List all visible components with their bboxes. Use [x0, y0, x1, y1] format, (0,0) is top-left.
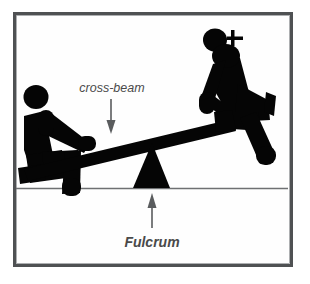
crossbeam-label: cross-beam [79, 81, 144, 95]
lever-diagram: cross-beam Fulcrum [0, 0, 310, 284]
fulcrum-label: Fulcrum [124, 234, 179, 250]
right-person-pocket [264, 92, 276, 116]
left-person-shoulder [38, 110, 54, 136]
diagram-canvas: cross-beam Fulcrum [0, 0, 310, 284]
face-detail-bar-vertical [231, 30, 235, 46]
left-person-foot [62, 178, 81, 196]
left-person-hand [78, 136, 96, 151]
face-detail-bar-horizontal [227, 37, 243, 41]
right-person-foot [256, 146, 276, 165]
left-person-head [24, 85, 49, 109]
